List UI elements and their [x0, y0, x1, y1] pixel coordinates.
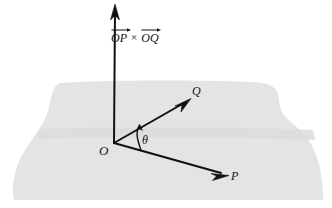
label-point-p: P [231, 170, 238, 182]
label-angle-theta: θ [142, 134, 148, 146]
label-origin: O [99, 144, 108, 157]
cross-operator: × [130, 32, 138, 44]
cross-right-term-text: OQ [141, 31, 158, 45]
cross-right-term: OQ [141, 28, 158, 44]
figure-canvas [0, 0, 332, 208]
cross-left-term-text: OP [111, 31, 127, 45]
label-cross-product: OP × OQ [111, 28, 159, 44]
shaded-plane [13, 81, 323, 200]
cross-left-term: OP [111, 28, 127, 44]
label-point-q: Q [192, 85, 201, 97]
cross-product-figure: O P Q θ OP × OQ [0, 0, 332, 208]
